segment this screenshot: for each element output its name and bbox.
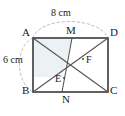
- vertex-label-n: N: [62, 94, 70, 105]
- point-f-marker: [82, 58, 84, 60]
- vertex-label-e: E: [55, 74, 61, 84]
- vertex-label-c: C: [110, 85, 117, 96]
- height-dimension-label: 6 cm: [3, 55, 23, 65]
- vertex-label-a: A: [22, 27, 30, 38]
- point-e-marker: [63, 77, 65, 79]
- vertex-label-m: M: [66, 25, 76, 36]
- width-dimension-label: 8 cm: [51, 8, 71, 18]
- geometry-figure: 8 cm 6 cm A M D F E B N C: [0, 0, 125, 116]
- vertex-label-b: B: [22, 85, 29, 96]
- vertex-label-f: F: [86, 55, 92, 65]
- vertex-label-d: D: [110, 27, 118, 38]
